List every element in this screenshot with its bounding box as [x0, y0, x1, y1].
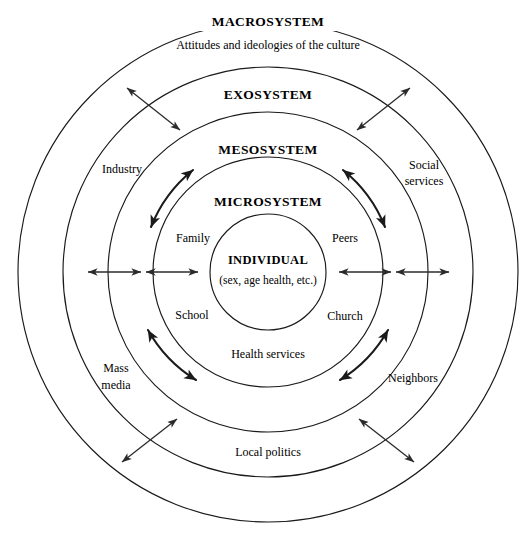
macrosystem-title: MACROSYSTEM — [212, 14, 324, 29]
arrow-bottom-left-diagonal — [122, 419, 177, 462]
label-neighbors: Neighbors — [388, 371, 438, 385]
label-local-politics: Local politics — [235, 445, 301, 459]
label-peers: Peers — [332, 231, 358, 245]
label-church: Church — [327, 309, 362, 323]
label-social-services-line2: services — [405, 174, 444, 188]
arrow-curve-upper-right — [343, 170, 385, 227]
microsystem-title: MICROSYSTEM — [214, 194, 322, 209]
arrow-bottom-right-diagonal — [359, 419, 414, 462]
arrow-top-left-diagonal — [127, 88, 180, 130]
exosystem-title: EXOSYSTEM — [224, 87, 312, 102]
individual-title: INDIVIDUAL — [228, 253, 308, 267]
mesosystem-title: MESOSYSTEM — [218, 142, 317, 157]
arrow-top-right-diagonal — [357, 88, 410, 130]
label-health-services: Health services — [231, 347, 305, 361]
diagram-canvas: MACROSYSTEM Attitudes and ideologies of … — [0, 0, 531, 544]
label-mass-media-line1: Mass — [103, 361, 129, 375]
label-social-services-line1: Social — [409, 158, 440, 172]
ecological-systems-diagram: MACROSYSTEM Attitudes and ideologies of … — [0, 0, 531, 544]
arrow-curve-upper-left — [151, 170, 193, 227]
labels-group: MACROSYSTEM Attitudes and ideologies of … — [101, 14, 443, 459]
label-industry: Industry — [102, 162, 142, 176]
individual-subtitle: (sex, age health, etc.) — [219, 274, 317, 287]
label-mass-media-line2: media — [101, 378, 131, 392]
ring-individual — [210, 214, 326, 330]
label-school: School — [175, 308, 209, 322]
macrosystem-subtitle: Attitudes and ideologies of the culture — [176, 38, 360, 52]
label-family: Family — [176, 231, 210, 245]
